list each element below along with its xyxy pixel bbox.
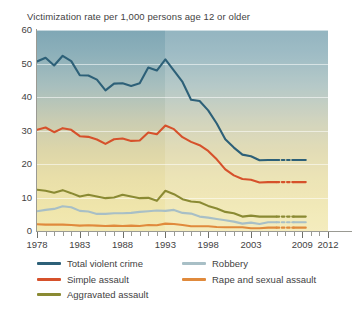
- x-axis-tick: [105, 232, 106, 236]
- series-line-solid: [37, 224, 277, 229]
- x-axis-tick: [114, 232, 115, 236]
- plot-area: [37, 30, 328, 231]
- y-axis-tick-label: 10: [10, 192, 32, 203]
- x-axis-tick: [54, 232, 55, 236]
- x-axis-tick: [46, 232, 47, 236]
- y-axis-tick-label: 0: [10, 225, 32, 236]
- y-axis-tick-label: 50: [10, 58, 32, 69]
- x-axis-tick: [123, 232, 124, 238]
- legend-row: Simple assaultRape and sexual assault: [37, 275, 349, 291]
- x-axis-tick: [148, 232, 149, 236]
- x-axis-tick-label: 1983: [69, 239, 90, 250]
- y-axis-tick-label: 30: [10, 125, 32, 136]
- x-axis-tick: [277, 232, 278, 236]
- series-line-solid: [37, 56, 277, 161]
- victimization-rate-line-chart: Victimization rate per 1,000 persons age…: [0, 0, 356, 319]
- x-axis-tick-label: 1988: [112, 239, 133, 250]
- legend-label: Robbery: [212, 259, 248, 269]
- x-axis-tick: [260, 232, 261, 236]
- y-axis-tick-label: 20: [10, 158, 32, 169]
- x-axis-tick: [200, 232, 201, 236]
- x-axis-tick: [71, 232, 72, 236]
- series-line-solid: [37, 190, 277, 217]
- legend-row: Total violent crimeRobbery: [37, 259, 349, 275]
- chart-title: Victimization rate per 1,000 persons age…: [27, 11, 250, 22]
- x-axis-tick-label: 1978: [26, 239, 47, 250]
- legend-color-swatch: [37, 278, 61, 281]
- series-lines: [37, 30, 328, 231]
- x-axis-tick-label: 1993: [155, 239, 176, 250]
- legend-label: Simple assault: [67, 275, 129, 285]
- x-axis-tick: [225, 232, 226, 236]
- x-axis-tick: [268, 232, 269, 236]
- legend-entry[interactable]: Simple assault: [37, 275, 129, 285]
- legend-color-swatch: [37, 262, 61, 265]
- y-axis-tick-labels: 0102030405060: [6, 0, 32, 319]
- x-axis-tick: [208, 232, 209, 238]
- x-axis-tick: [174, 232, 175, 236]
- legend-row: Aggravated assault: [37, 290, 349, 306]
- x-axis-tick: [88, 232, 89, 236]
- legend-entry[interactable]: Robbery: [182, 259, 248, 269]
- x-axis-line: [36, 231, 352, 232]
- x-axis-tick: [165, 232, 166, 238]
- x-axis-tick: [302, 232, 303, 238]
- y-axis-tick-label: 40: [10, 91, 32, 102]
- legend-label: Total violent crime: [67, 259, 143, 269]
- legend-color-swatch: [182, 278, 206, 281]
- x-axis-tick: [63, 232, 64, 236]
- x-axis-tick: [319, 232, 320, 236]
- x-axis-tick: [328, 232, 329, 238]
- chart-legend: Total violent crimeRobberySimple assault…: [37, 259, 349, 306]
- x-axis-tick: [294, 232, 295, 236]
- x-axis-tick: [97, 232, 98, 236]
- x-axis-tick-label: 2012: [317, 239, 338, 250]
- x-axis-tick: [217, 232, 218, 236]
- legend-entry[interactable]: Aggravated assault: [37, 290, 148, 300]
- x-axis-tick: [37, 232, 38, 238]
- x-axis-tick: [80, 232, 81, 238]
- x-axis-tick: [191, 232, 192, 236]
- x-axis-tick: [242, 232, 243, 236]
- x-axis-tick: [311, 232, 312, 236]
- x-axis-tick: [285, 232, 286, 236]
- x-axis-tick: [140, 232, 141, 236]
- x-axis-tick-label: 2003: [240, 239, 261, 250]
- legend-color-swatch: [37, 293, 61, 296]
- x-axis-tick: [251, 232, 252, 238]
- x-axis-tick-label: 2009: [292, 239, 313, 250]
- legend-entry[interactable]: Total violent crime: [37, 259, 143, 269]
- legend-label: Rape and sexual assault: [212, 275, 316, 285]
- x-axis-tick-label: 1998: [198, 239, 219, 250]
- legend-entry[interactable]: Rape and sexual assault: [182, 275, 316, 285]
- y-axis-tick-label: 60: [10, 24, 32, 35]
- legend-color-swatch: [182, 262, 206, 265]
- x-axis-tick: [157, 232, 158, 236]
- legend-label: Aggravated assault: [67, 290, 148, 300]
- x-axis-tick: [183, 232, 184, 236]
- x-axis-tick: [234, 232, 235, 236]
- x-axis-tick: [131, 232, 132, 236]
